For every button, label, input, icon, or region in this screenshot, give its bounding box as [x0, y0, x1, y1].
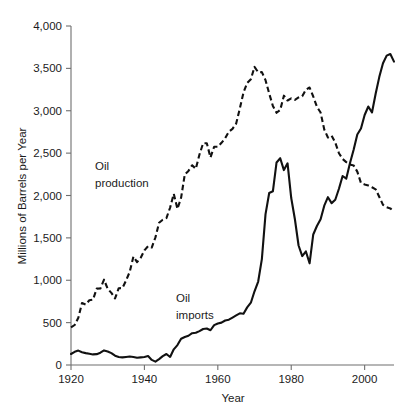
- oil-production-line: [71, 67, 394, 328]
- x-tick-label: 1960: [205, 373, 231, 385]
- y-axis-ticks: 05001,0001,5002,0002,5003,0003,5004,000: [33, 20, 71, 371]
- x-tick-label: 1980: [278, 373, 304, 385]
- oil-production-label-line1: Oil: [95, 160, 109, 172]
- y-tick-label: 2,000: [33, 190, 62, 202]
- y-axis-title: Millions of Barrels per Year: [16, 127, 28, 264]
- y-tick-label: 3,500: [33, 62, 62, 74]
- oil-imports-line: [71, 54, 394, 362]
- oil-imports-label-line1: Oil: [176, 292, 190, 304]
- y-tick-label: 0: [56, 359, 62, 371]
- x-tick-label: 1940: [132, 373, 158, 385]
- oil-imports-label-line2: imports: [176, 309, 214, 321]
- x-tick-label: 2000: [352, 373, 378, 385]
- y-tick-label: 500: [43, 317, 62, 329]
- y-tick-label: 1,000: [33, 274, 62, 286]
- oil-production-label-line2: production: [95, 177, 149, 189]
- x-axis-ticks: 19201940196019802000: [58, 365, 377, 385]
- chart-series: [71, 54, 394, 362]
- oil-chart-figure: 05001,0001,5002,0002,5003,0003,5004,000 …: [0, 0, 417, 418]
- y-tick-label: 2,500: [33, 147, 62, 159]
- x-tick-label: 1920: [58, 373, 84, 385]
- y-tick-label: 4,000: [33, 20, 62, 32]
- y-tick-label: 1,500: [33, 232, 62, 244]
- chart-axes: [71, 26, 394, 365]
- y-tick-label: 3,000: [33, 105, 62, 117]
- chart-canvas: 05001,0001,5002,0002,5003,0003,5004,000 …: [0, 0, 417, 418]
- x-axis-title: Year: [221, 392, 244, 404]
